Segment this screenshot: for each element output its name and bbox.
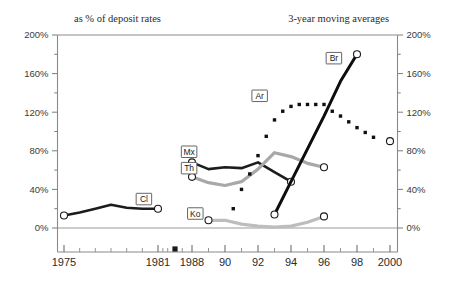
y-axis-tick-label-left: 160% — [24, 68, 49, 79]
series-endpoint-marker — [387, 138, 394, 145]
y-axis-tick-label-right: 200% — [407, 29, 432, 40]
x-axis-tick-label: 2000 — [378, 256, 402, 268]
series-label-ko: Ko — [190, 209, 201, 219]
series-dot — [289, 105, 292, 108]
series-label-mx: Mx — [183, 147, 195, 157]
series-dot — [240, 188, 243, 191]
series-dot — [256, 154, 259, 157]
series-dot — [347, 120, 350, 123]
series-line — [209, 216, 325, 227]
series-dot — [331, 110, 334, 113]
y-axis-tick-label-left: 40% — [29, 184, 49, 195]
x-axis-tick-label: 1988 — [180, 256, 204, 268]
series-cl: Cl — [61, 193, 162, 219]
y-axis-tick-label-left: 200% — [24, 29, 49, 40]
series-label-cl: Cl — [140, 194, 148, 204]
series-th: Th — [181, 153, 327, 186]
subtitle-right: 3-year moving averages — [288, 13, 389, 24]
x-axis-tick-label: 1975 — [52, 256, 76, 268]
series-dot — [372, 136, 375, 139]
x-axis-tick-label: 96 — [318, 256, 330, 268]
series-dot — [265, 135, 268, 138]
series-dot — [281, 110, 284, 113]
y-axis-tick-label-right: 0% — [407, 222, 421, 233]
series-endpoint-marker — [354, 51, 361, 58]
series-dot — [355, 126, 358, 129]
series-dot — [298, 103, 301, 106]
series-dot — [314, 103, 317, 106]
series-dot — [339, 114, 342, 117]
series-ar: Ar — [232, 90, 394, 210]
series-br: Br — [271, 51, 361, 218]
x-axis-tick-label: 90 — [219, 256, 231, 268]
line-chart: as % of deposit rates3-year moving avera… — [0, 0, 455, 283]
y-axis-tick-label-right: 80% — [407, 145, 427, 156]
series-line — [192, 162, 291, 181]
series-dot — [248, 172, 251, 175]
series-endpoint-marker — [155, 205, 162, 212]
series-dot — [273, 118, 276, 121]
x-axis-tick-label: 94 — [285, 256, 297, 268]
x-axis-tick-label: 1981 — [146, 256, 170, 268]
series-label-th: Th — [184, 163, 194, 173]
y-axis-tick-label-right: 160% — [407, 68, 432, 79]
x-axis-break-marker — [172, 246, 177, 251]
series-line — [64, 205, 158, 216]
series-endpoint-marker — [271, 211, 278, 218]
y-axis-tick-label-left: 120% — [24, 107, 49, 118]
x-axis-tick-label: 98 — [351, 256, 363, 268]
series-dot — [306, 103, 309, 106]
x-axis-tick-label: 92 — [252, 256, 264, 268]
series-endpoint-marker — [205, 217, 212, 224]
y-axis-tick-label-left: 80% — [29, 145, 49, 156]
series-ko: Ko — [188, 208, 328, 227]
y-axis-tick-label-left: 0% — [35, 222, 49, 233]
subtitle-left: as % of deposit rates — [74, 13, 161, 24]
series-endpoint-marker — [61, 212, 68, 219]
series-endpoint-marker — [321, 164, 328, 171]
y-axis-tick-label-right: 40% — [407, 184, 427, 195]
chart-container: as % of deposit rates3-year moving avera… — [0, 0, 455, 283]
y-axis-tick-label-right: 120% — [407, 107, 432, 118]
series-endpoint-marker — [321, 213, 328, 220]
series-dot — [364, 131, 367, 134]
series-endpoint-marker — [189, 173, 196, 180]
series-label-br: Br — [330, 53, 339, 63]
series-dot — [322, 103, 325, 106]
series-label-ar: Ar — [255, 91, 264, 101]
series-dot — [232, 207, 235, 210]
series-line — [275, 54, 358, 214]
